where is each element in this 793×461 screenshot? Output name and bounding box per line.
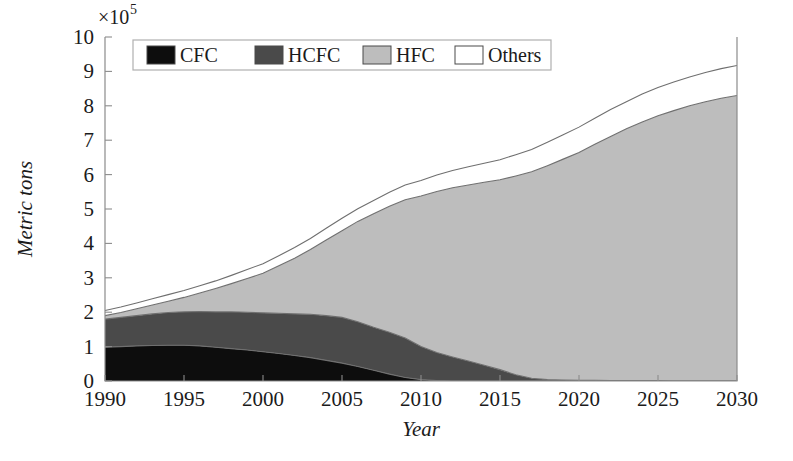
x-tick-label: 2020: [558, 387, 600, 411]
y-tick-label: 3: [84, 266, 95, 290]
multiplier-base: ×10: [98, 6, 129, 28]
legend-swatch-hfc: [363, 46, 391, 64]
x-tick-label: 2025: [637, 387, 679, 411]
x-tick-label: 2005: [321, 387, 363, 411]
legend-swatch-cfc: [147, 46, 175, 64]
x-tick-label: 1990: [84, 387, 126, 411]
y-tick-label: 8: [84, 94, 95, 118]
y-tick-label: 2: [84, 300, 95, 324]
chart-canvas: 0123456789101990199520002005201020152020…: [0, 0, 793, 461]
y-axis-multiplier: ×105: [98, 2, 137, 28]
legend-swatch-others: [455, 46, 483, 64]
legend-label-hcfc: HCFC: [288, 44, 340, 66]
y-tick-label: 6: [84, 163, 95, 187]
legend-label-others: Others: [488, 44, 542, 66]
chart-root: 0123456789101990199520002005201020152020…: [0, 0, 793, 461]
x-axis-title: Year: [402, 417, 441, 441]
multiplier-exponent: 5: [130, 2, 137, 17]
y-tick-label: 1: [84, 335, 95, 359]
x-tick-label: 1995: [163, 387, 205, 411]
y-tick-label: 7: [84, 128, 95, 152]
y-tick-label: 9: [84, 59, 95, 83]
legend-label-hfc: HFC: [396, 44, 435, 66]
stacked-area-chart: 0123456789101990199520002005201020152020…: [0, 0, 793, 461]
x-tick-label: 2000: [242, 387, 284, 411]
chart-legend: CFCHCFCHFCOthers: [133, 40, 551, 70]
x-tick-label: 2015: [479, 387, 521, 411]
legend-swatch-hcfc: [255, 46, 283, 64]
y-axis-title: Metric tons: [13, 161, 37, 258]
y-tick-label: 4: [84, 231, 95, 255]
legend-label-cfc: CFC: [180, 44, 218, 66]
x-tick-label: 2030: [716, 387, 758, 411]
y-tick-label: 5: [84, 197, 95, 221]
x-tick-label: 2010: [400, 387, 442, 411]
y-tick-label: 10: [73, 25, 94, 49]
